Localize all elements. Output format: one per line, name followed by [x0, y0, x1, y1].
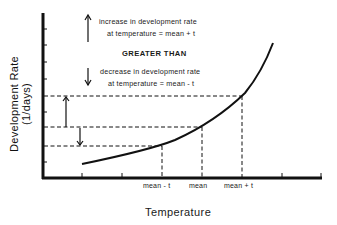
- greater-than-label: GREATER THAN: [122, 49, 187, 58]
- x-tick-mean: mean: [189, 182, 207, 189]
- increase-annotation-line1: increase in development rate: [99, 17, 197, 26]
- arrow-up-icon: [85, 15, 91, 42]
- arrow-down-icon: [85, 68, 91, 85]
- decrease-annotation-line2: at temperature = mean - t: [108, 79, 194, 88]
- x-tick-mean-minus-t: mean - t: [143, 182, 170, 189]
- increase-annotation-line2: at temperature = mean + t: [107, 29, 195, 38]
- x-tick-mean-plus-t: mean + t: [224, 182, 253, 189]
- decrease-annotation-line1: decrease in development rate: [100, 67, 200, 76]
- y-axis-label: Development Rate (1/days): [8, 39, 32, 169]
- x-axis-label: Temperature: [145, 206, 211, 218]
- increase-arrow: [63, 97, 69, 127]
- dashed-guides: [44, 96, 242, 177]
- decrease-arrow: [77, 128, 83, 145]
